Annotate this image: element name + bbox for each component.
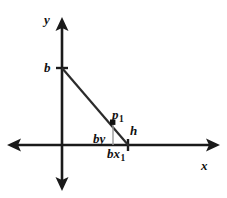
y-axis-label: y	[44, 13, 50, 26]
vertical-leg-label-by: by	[93, 132, 105, 145]
coordinate-plane-svg	[0, 0, 227, 198]
horizontal-foot-label-subscript: 1	[121, 153, 126, 163]
horizontal-foot-label-base: bx	[107, 146, 120, 161]
point-label-p1: p1	[112, 108, 123, 122]
x-axis-label: x	[201, 159, 208, 172]
point-label-base: p	[112, 107, 119, 122]
hypotenuse-label-h: h	[130, 124, 137, 137]
y-intercept-label-b: b	[44, 61, 51, 74]
math-figure: y x b p1 h by bx1	[0, 0, 227, 198]
point-label-subscript: 1	[119, 114, 124, 124]
horizontal-foot-label-bx1: bx1	[107, 147, 125, 161]
